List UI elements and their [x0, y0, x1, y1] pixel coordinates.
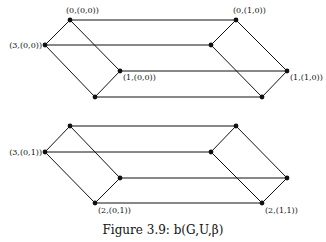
nodes-layer — [43, 18, 290, 206]
edges-layer — [45, 20, 287, 203]
node-label: (3,(0,1)) — [9, 148, 42, 157]
graph-edge — [45, 45, 95, 97]
graph-node — [260, 95, 265, 100]
graph-edge — [262, 71, 287, 97]
node-label: (0,(0,0)) — [66, 6, 99, 15]
graph-edge — [236, 20, 287, 71]
graph-node — [68, 18, 73, 23]
graph-edge — [45, 126, 70, 152]
graph-node — [68, 124, 73, 129]
graph-node — [234, 18, 239, 23]
node-label: (1,(1,0)) — [290, 73, 323, 82]
graph-node — [43, 43, 48, 48]
node-label: (1,(0,0)) — [123, 73, 156, 82]
graph-node — [285, 69, 290, 74]
graph-edge — [95, 71, 120, 97]
graph-edge — [236, 126, 287, 178]
graph-edge — [45, 20, 70, 45]
labels-layer: (0,(0,0))(3,(0,0))(1,(0,0))(0,(1,0))(1,(… — [9, 6, 323, 215]
node-label: (3,(0,0)) — [9, 41, 42, 50]
graph-node — [118, 69, 123, 74]
graph-node — [93, 201, 98, 206]
node-label: (2,(0,1)) — [98, 206, 131, 215]
graph-edge — [211, 20, 236, 45]
graph-edge — [211, 126, 236, 152]
graph-node — [209, 43, 214, 48]
graph-node — [285, 176, 290, 181]
graph-node — [209, 150, 214, 155]
graph-diagram: (0,(0,0))(3,(0,0))(1,(0,0))(0,(1,0))(1,(… — [0, 0, 326, 242]
graph-node — [260, 201, 265, 206]
graph-edge — [95, 178, 120, 203]
node-label: (2,(1,1)) — [265, 206, 298, 215]
graph-edge — [45, 152, 95, 203]
graph-node — [93, 95, 98, 100]
graph-edge — [262, 178, 287, 203]
figure-caption: Figure 3.9: b(G,U,β) — [103, 223, 224, 237]
node-label: (0,(1,0)) — [233, 6, 266, 15]
graph-node — [234, 124, 239, 129]
graph-node — [118, 176, 123, 181]
graph-node — [43, 150, 48, 155]
